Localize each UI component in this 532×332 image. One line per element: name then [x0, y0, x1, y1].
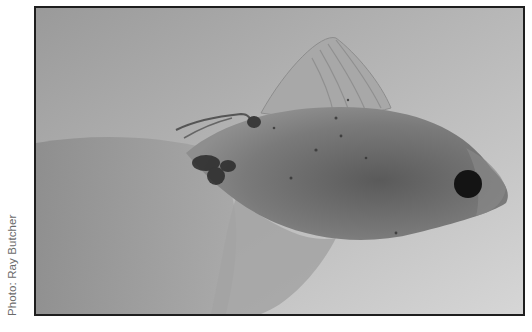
fish-eye — [454, 170, 482, 198]
fish-illustration — [36, 8, 523, 314]
photo-credit: Photo: Ray Butcher — [6, 214, 18, 316]
fish-photo — [34, 6, 525, 316]
